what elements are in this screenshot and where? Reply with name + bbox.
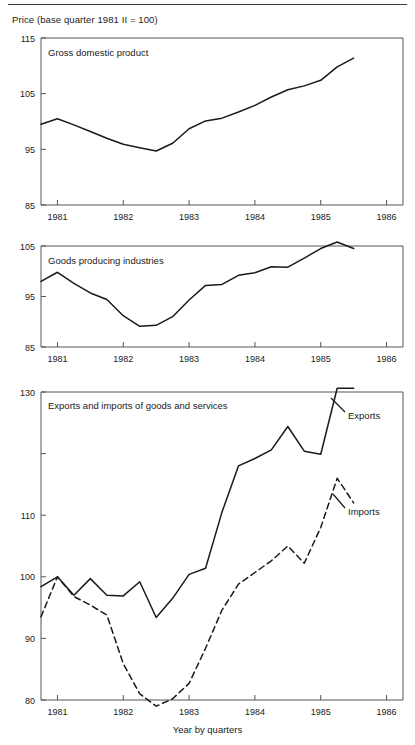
y-axis-tick-label: 80 (25, 696, 35, 706)
x-axis-tick-label: 1982 (113, 354, 133, 364)
plot-area-exports-and-imports: 8090100110130198119821983198419851986 (0, 382, 415, 745)
panel-goods-producing-industries: 8595105198119821983198419851986 Goods pr… (0, 234, 415, 379)
series-label-imports: Imports (348, 506, 380, 517)
x-axis-tick-label: 1983 (179, 707, 199, 717)
series-line-gross-domestic-product (41, 58, 354, 151)
y-axis-tick-label: 95 (25, 145, 35, 155)
panel-gross-domestic-product: 8595105115198119821983198419851986 Gross… (0, 28, 415, 228)
y-axis-tick-label: 130 (20, 388, 35, 398)
y-axis-tick-label: 115 (21, 34, 35, 44)
x-axis-tick-label: 1986 (377, 354, 397, 364)
plot-frame (41, 392, 403, 700)
x-axis-tick-label: 1981 (47, 354, 67, 364)
x-axis-tick-label: 1984 (245, 212, 265, 222)
x-axis-tick-label: 1982 (113, 707, 133, 717)
figure-page: Price (base quarter 1981 II = 100) 85951… (0, 0, 415, 745)
series-line-imports (41, 478, 354, 706)
figure-super-title: Price (base quarter 1981 II = 100) (12, 14, 158, 25)
x-axis-tick-label: 1985 (311, 707, 331, 717)
x-axis-tick-label: 1981 (47, 707, 67, 717)
y-axis-tick-label: 105 (20, 89, 35, 99)
y-axis-tick-label: 85 (25, 343, 35, 353)
x-axis-title: Year by quarters (0, 724, 415, 735)
x-axis-tick-label: 1985 (311, 354, 331, 364)
top-rule (8, 4, 407, 5)
x-axis-tick-label: 1983 (179, 212, 199, 222)
x-axis-tick-label: 1983 (179, 354, 199, 364)
plot-frame (41, 38, 403, 205)
plot-area-gross-domestic-product: 8595105115198119821983198419851986 (0, 28, 415, 228)
y-axis-tick-label: 110 (21, 511, 35, 521)
x-axis-tick-label: 1984 (245, 707, 265, 717)
panel-caption-gross-domestic-product: Gross domestic product (48, 47, 148, 58)
x-axis-tick-label: 1986 (377, 707, 397, 717)
y-axis-tick-label: 100 (20, 572, 35, 582)
x-axis-tick-label: 1986 (377, 212, 397, 222)
x-axis-tick-label: 1985 (311, 212, 331, 222)
leader-line-imports (333, 494, 345, 508)
y-axis-tick-label: 85 (25, 201, 35, 211)
x-axis-tick-label: 1982 (113, 212, 133, 222)
x-axis-tick-label: 1984 (245, 354, 265, 364)
series-label-exports: Exports (348, 410, 380, 421)
panel-caption-exports-and-imports: Exports and imports of goods and service… (48, 400, 228, 411)
y-axis-tick-label: 105 (20, 242, 35, 252)
panel-caption-goods-producing-industries: Goods producing industries (48, 255, 164, 266)
x-axis-tick-label: 1981 (47, 212, 67, 222)
panel-exports-and-imports: 8090100110130198119821983198419851986 Ex… (0, 382, 415, 745)
series-line-exports (41, 388, 354, 617)
y-axis-tick-label: 90 (25, 634, 35, 644)
y-axis-tick-label: 95 (25, 292, 35, 302)
